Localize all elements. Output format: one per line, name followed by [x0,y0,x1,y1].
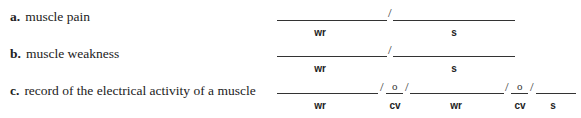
separator-slash: / [505,79,509,95]
label-s: s [550,100,556,111]
answer-blank-cv[interactable] [386,93,403,94]
item-b: b.muscle weakness [10,46,119,62]
answer-blank-wr[interactable] [277,56,387,57]
item-letter: b. [10,46,21,61]
answer-blank-wr[interactable] [277,20,387,21]
label-wr: wr [314,63,326,74]
combining-vowel: o [517,80,523,92]
label-wr: wr [314,100,326,111]
label-s: s [451,27,457,38]
answer-blank-cv[interactable] [511,93,528,94]
separator-slash: / [530,79,534,95]
separator-slash: / [405,79,409,95]
label-cv: cv [389,100,400,111]
item-text: record of the electrical activity of a m… [24,83,255,98]
item-letter: c. [10,83,19,98]
label-s: s [451,63,457,74]
separator-slash: / [388,5,392,21]
separator-slash: / [388,42,392,58]
item-c: c.record of the electrical activity of a… [10,83,256,99]
item-a: a.muscle pain [10,9,90,25]
item-text: muscle pain [25,9,90,24]
answer-blank-wr[interactable] [277,93,378,94]
label-wr: wr [450,100,462,111]
answer-blank-wr[interactable] [410,93,504,94]
label-cv: cv [514,100,525,111]
answer-blank-s[interactable] [393,20,515,21]
label-wr: wr [314,27,326,38]
combining-vowel: o [392,80,398,92]
separator-slash: / [380,79,384,95]
answer-blank-s[interactable] [393,56,515,57]
item-letter: a. [10,9,20,24]
answer-blank-s[interactable] [536,93,576,94]
item-text: muscle weakness [26,46,119,61]
